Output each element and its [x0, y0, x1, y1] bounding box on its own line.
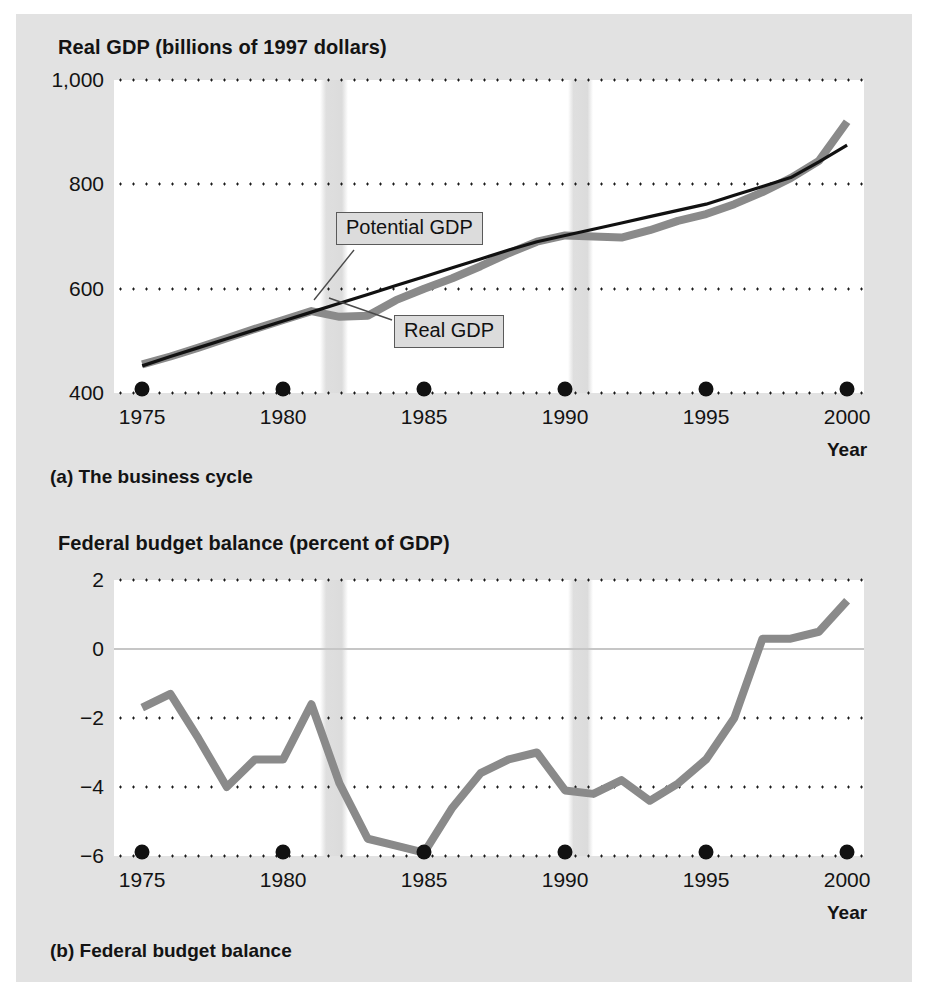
- x-axis-tick-marker: [558, 382, 573, 397]
- x-axis-tick-label: 1980: [260, 405, 307, 429]
- plot-area-budget-balance: [114, 580, 864, 856]
- y-axis-tick-label: 400: [20, 381, 104, 405]
- panel-b-caption: (b) Federal budget balance: [50, 940, 292, 962]
- panel-a-caption: (a) The business cycle: [50, 466, 253, 488]
- y-axis-tick-label: −4: [20, 775, 104, 799]
- x-axis-tick-label: 1995: [683, 868, 730, 892]
- y-axis-tick-label: 1,000: [20, 68, 104, 92]
- y-axis-tick-label: 600: [20, 277, 104, 301]
- x-axis-tick-label: 1990: [542, 868, 589, 892]
- x-axis-tick-label: 1975: [119, 868, 166, 892]
- x-axis-tick-marker: [276, 382, 291, 397]
- y-axis-tick-label: −2: [20, 706, 104, 730]
- x-axis-tick-marker: [558, 845, 573, 860]
- x-axis-tick-marker: [417, 845, 432, 860]
- callout-potential-gdp: Potential GDP: [336, 212, 483, 245]
- x-axis-tick-label: 1985: [401, 405, 448, 429]
- series-layer: [114, 580, 864, 856]
- y-axis-tick-label: 800: [20, 172, 104, 196]
- x-axis-tick-label: 1985: [401, 868, 448, 892]
- y-axis-tick-label: −6: [20, 844, 104, 868]
- x-axis-tick-marker: [417, 382, 432, 397]
- x-axis-tick-label: 1995: [683, 405, 730, 429]
- panel-federal-budget-balance: Federal budget balance (percent of GDP) …: [16, 506, 912, 982]
- x-axis-tick-marker: [840, 382, 855, 397]
- x-axis-tick-label: 1975: [119, 405, 166, 429]
- x-axis-tick-label: 2000: [824, 405, 871, 429]
- x-axis-tick-marker: [699, 845, 714, 860]
- panel-business-cycle: Real GDP (billions of 1997 dollars) (a) …: [16, 14, 912, 506]
- panel-a-title: Real GDP (billions of 1997 dollars): [58, 36, 387, 59]
- x-axis-tick-marker: [135, 845, 150, 860]
- x-axis-tick-marker: [840, 845, 855, 860]
- y-axis-tick-label: 2: [20, 568, 104, 592]
- x-axis-name: Year: [827, 439, 867, 461]
- y-axis-tick-label: 0: [20, 637, 104, 661]
- series-line-federal-budget-balance: [142, 601, 847, 853]
- x-axis-tick-marker: [699, 382, 714, 397]
- panel-b-title: Federal budget balance (percent of GDP): [58, 532, 450, 555]
- x-axis-tick-label: 2000: [824, 868, 871, 892]
- x-axis-tick-marker: [276, 845, 291, 860]
- figure-container: Real GDP (billions of 1997 dollars) (a) …: [16, 14, 912, 982]
- x-axis-tick-label: 1980: [260, 868, 307, 892]
- x-axis-tick-marker: [135, 382, 150, 397]
- callout-real-gdp: Real GDP: [394, 315, 504, 348]
- x-axis-tick-label: 1990: [542, 405, 589, 429]
- x-axis-name: Year: [827, 902, 867, 924]
